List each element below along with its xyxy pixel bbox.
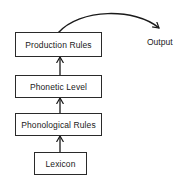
production-rules-label: Production Rules	[25, 40, 91, 50]
phonological-rules-label: Phonological Rules	[21, 120, 96, 130]
lexicon-label: Lexicon	[46, 159, 76, 169]
output-label: Output	[147, 37, 173, 47]
phonetic-level-label: Phonetic Level	[30, 82, 87, 92]
arrow-production-to-output	[58, 14, 159, 33]
phonetic-level-box: Phonetic Level	[15, 75, 102, 98]
lexicon-box: Lexicon	[34, 152, 87, 175]
production-rules-box: Production Rules	[15, 32, 102, 57]
phonological-rules-box: Phonological Rules	[15, 113, 102, 136]
